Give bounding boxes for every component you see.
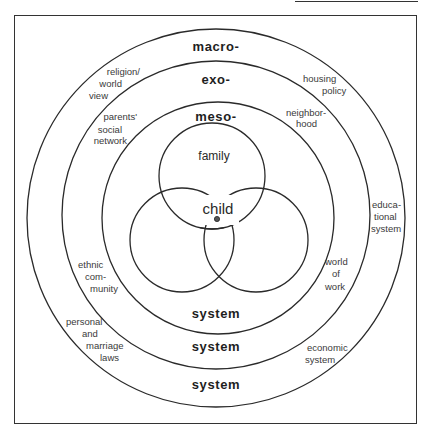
child-dot [214, 216, 219, 221]
world-of-work-label: world of work [324, 256, 348, 292]
svg-text:ethnic: ethnic [78, 259, 104, 270]
family-label: family [198, 149, 229, 163]
meso-system-label: system [192, 306, 240, 321]
svg-text:educa-: educa- [372, 199, 401, 210]
macro-label: macro- [193, 39, 240, 54]
svg-text:religion/: religion/ [107, 66, 141, 77]
svg-text:neighbor-: neighbor- [286, 107, 326, 118]
personal-marriage-laws-label: personal and marriage laws [66, 316, 124, 363]
svg-text:world: world [324, 256, 348, 267]
svg-text:com-: com- [85, 271, 106, 282]
svg-text:work: work [324, 281, 345, 292]
meso-label: meso- [195, 109, 236, 124]
svg-text:social: social [98, 124, 122, 135]
svg-text:personal: personal [66, 316, 102, 327]
svg-text:and: and [82, 328, 98, 339]
svg-text:laws: laws [100, 352, 119, 363]
svg-text:network: network [94, 135, 128, 146]
educational-system-label: educa- tional system [371, 199, 401, 234]
neighborhood-label: neighbor- hood [286, 107, 326, 129]
exo-label: exo- [201, 72, 230, 87]
svg-text:world: world [98, 78, 122, 89]
svg-text:system: system [371, 223, 401, 234]
svg-text:housing: housing [303, 73, 336, 84]
svg-text:economic: economic [307, 342, 348, 353]
economic-system-label: economic system [305, 342, 348, 365]
svg-text:hood: hood [296, 118, 317, 129]
ecological-systems-diagram: macro- exo- meso- system system system f… [0, 0, 432, 438]
svg-text:marriage: marriage [86, 340, 124, 351]
svg-text:munity: munity [90, 283, 118, 294]
child-label: child [203, 200, 234, 217]
svg-text:view: view [89, 90, 108, 101]
svg-text:of: of [332, 268, 340, 279]
svg-text:parents': parents' [103, 111, 137, 122]
family-circle-bottom-arc [200, 228, 224, 229]
svg-text:policy: policy [322, 85, 347, 96]
macro-system-label: system [192, 377, 240, 392]
exo-system-label: system [192, 339, 240, 354]
svg-text:system: system [305, 354, 335, 365]
svg-text:tional: tional [374, 211, 397, 222]
